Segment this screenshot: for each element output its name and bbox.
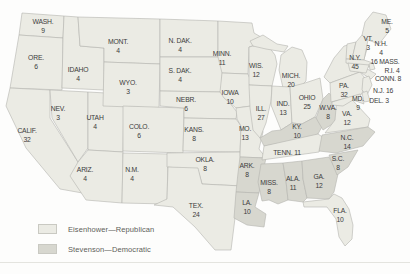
state-shape-WY bbox=[103, 62, 160, 108]
state-shape-CO bbox=[123, 106, 184, 153]
legend: Eisenhower—Republican Stevenson—Democrat… bbox=[38, 224, 154, 264]
state-shape-DE bbox=[362, 91, 370, 102]
state-shape-FL bbox=[303, 194, 353, 246]
state-shape-KS bbox=[183, 118, 241, 152]
stevenson-democratic-swatch bbox=[38, 244, 57, 254]
stevenson-democratic-label: Stevenson—Democratic bbox=[68, 245, 151, 254]
state-shape-MS bbox=[258, 163, 288, 204]
legend-item-eisenhower: Eisenhower—Republican bbox=[38, 224, 154, 234]
state-shape-RI bbox=[369, 63, 375, 70]
state-shape-NH bbox=[352, 35, 368, 60]
electoral-map-figure: WASH.9ORE.6CALIF.32IDAHO4NEV.3UTAH4ARIZ.… bbox=[0, 0, 410, 274]
state-shape-IN bbox=[271, 86, 292, 130]
legend-item-stevenson: Stevenson—Democratic bbox=[38, 244, 154, 254]
state-shape-ND bbox=[160, 19, 218, 57]
state-shape-OR bbox=[10, 35, 63, 90]
eisenhower-republican-swatch bbox=[38, 224, 57, 234]
state-shape-NM bbox=[122, 153, 168, 204]
state-shape-WA bbox=[19, 13, 64, 38]
eisenhower-republican-label: Eisenhower—Republican bbox=[68, 225, 154, 234]
state-shape-SD bbox=[160, 57, 223, 92]
figure-bottom-rule bbox=[0, 262, 410, 263]
state-shape-MI bbox=[279, 47, 307, 88]
